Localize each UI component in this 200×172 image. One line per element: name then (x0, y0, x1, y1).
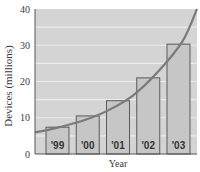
bar-label: '02 (141, 140, 155, 151)
y-axis-ticks: 010203040 (20, 4, 30, 160)
bar-chart: '99'00'01'02'03 010203040 Devices (milli… (0, 0, 200, 172)
y-tick-label: 10 (20, 112, 30, 123)
y-tick-label: 40 (20, 4, 30, 15)
bar-label: '01 (111, 140, 125, 151)
bar-label: '99 (51, 140, 65, 151)
y-tick-label: 30 (20, 40, 30, 51)
bar (167, 44, 190, 154)
x-axis-label: Year (109, 158, 128, 169)
bar-label: '03 (172, 140, 186, 151)
y-tick-label: 20 (20, 76, 30, 87)
y-axis-label: Devices (millions) (2, 45, 15, 127)
bar-label: '00 (81, 140, 95, 151)
y-tick-label: 0 (25, 149, 30, 160)
